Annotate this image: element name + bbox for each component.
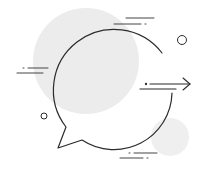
small-ring-icon: [178, 36, 187, 45]
illustration-svg: [0, 0, 202, 170]
small-background-circle: [151, 118, 189, 156]
arrow-icon: [140, 78, 190, 90]
chat-illustration: [0, 0, 202, 170]
motion-lines-bottom: [120, 153, 157, 158]
tiny-ring-icon: [41, 113, 47, 119]
